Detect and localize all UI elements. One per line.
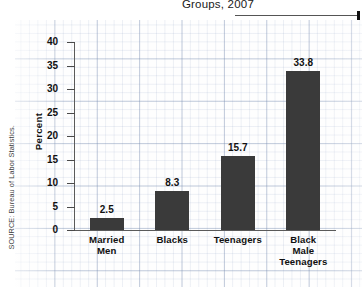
bar-value-label: 15.7 bbox=[228, 142, 247, 153]
y-axis-tick-label: 30 bbox=[32, 82, 58, 95]
bar-value-label: 2.5 bbox=[100, 204, 114, 215]
y-axis-tick: 5 bbox=[67, 207, 75, 208]
y-axis-tick-label: 10 bbox=[32, 176, 58, 189]
y-axis-tick: 35 bbox=[67, 66, 75, 67]
y-axis-tick-label: 20 bbox=[32, 129, 58, 142]
x-axis-category-label: BlackMaleTeenagers bbox=[271, 234, 337, 268]
bar-value-label: 8.3 bbox=[165, 177, 179, 188]
bar: 2.5 bbox=[90, 218, 124, 230]
y-axis-tick-label: 5 bbox=[32, 200, 58, 213]
bar-value-label: 33.8 bbox=[294, 57, 313, 68]
source-note: SOURCE: Bureau of Labor Statistics. bbox=[7, 120, 16, 250]
y-axis-tick: 25 bbox=[67, 113, 75, 114]
bar: 33.8 bbox=[286, 71, 320, 230]
chart-page: Groups, 2007 SOURCE: Bureau of Labor Sta… bbox=[0, 0, 362, 287]
bar: 15.7 bbox=[221, 156, 255, 230]
title-underline-end-tick bbox=[357, 11, 360, 20]
y-axis-tick: 0 bbox=[67, 230, 75, 231]
x-axis-category-label: Teenagers bbox=[205, 234, 271, 245]
y-axis-tick: 10 bbox=[67, 183, 75, 184]
y-axis-tick: 40 bbox=[67, 42, 75, 43]
bar: 8.3 bbox=[155, 191, 189, 230]
x-axis-category-label: MarriedMen bbox=[74, 234, 140, 256]
y-axis-tick: 15 bbox=[67, 160, 75, 161]
y-axis-tick-label: 0 bbox=[32, 223, 58, 236]
y-axis-tick-label: 15 bbox=[32, 153, 58, 166]
title-underline bbox=[235, 15, 358, 16]
x-axis-category-label: Blacks bbox=[140, 234, 206, 245]
x-axis-line bbox=[74, 230, 336, 231]
plot-area: Percent 05101520253035402.5MarriedMen8.3… bbox=[74, 42, 346, 230]
y-axis-tick-label: 35 bbox=[32, 59, 58, 72]
page-title: Groups, 2007 bbox=[182, 0, 254, 10]
y-axis-tick: 30 bbox=[67, 89, 75, 90]
y-axis-tick-label: 25 bbox=[32, 106, 58, 119]
y-axis-tick-label: 40 bbox=[32, 35, 58, 48]
y-axis-tick: 20 bbox=[67, 136, 75, 137]
title-bar: Groups, 2007 bbox=[0, 0, 362, 20]
